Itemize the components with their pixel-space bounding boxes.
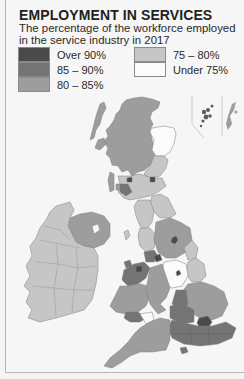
region-kintyre [108, 172, 114, 192]
region-isle-of-wight [180, 347, 188, 354]
region-edinburgh [150, 177, 155, 182]
legend-label: 75 – 80% [173, 49, 219, 61]
region-arran [116, 184, 120, 190]
region-powys-west-wales [110, 284, 150, 314]
legend-label: Under 75% [173, 64, 228, 76]
map-subtitle: The percentage of the workforce employed… [19, 22, 239, 47]
northern-isles-insets [192, 96, 238, 138]
legend-item-over-90: Over 90% [18, 47, 106, 62]
legend-item-75-80: 75 – 80% [134, 47, 219, 62]
legend-swatch [18, 62, 50, 77]
region-lancashire [138, 228, 156, 252]
region-skye [95, 138, 106, 150]
region-aberdeenshire [150, 126, 176, 156]
legend-swatch [134, 62, 166, 77]
region-glasgow [127, 177, 132, 182]
legend-label: 85 – 90% [57, 64, 103, 76]
map-title: EMPLOYMENT IN SERVICES [19, 7, 212, 23]
region-south-west-england [104, 318, 170, 368]
legend-item-85-90: 85 – 90% [18, 62, 103, 77]
region-cumbria [134, 200, 154, 230]
legend-label: 80 – 85% [57, 79, 103, 91]
legend-swatch [18, 77, 50, 92]
region-outer-hebrides [90, 102, 106, 140]
region-shetland [226, 102, 238, 130]
region-conwy [136, 266, 142, 272]
region-isle-of-man [124, 230, 130, 240]
legend-swatch [18, 47, 50, 62]
legend: Over 90% 85 – 90% 80 – 85% 75 – 80% Unde… [18, 47, 243, 95]
region-lincolnshire [186, 258, 206, 282]
region-orkney [200, 105, 214, 128]
legend-item-80-85: 80 – 85% [18, 77, 103, 92]
legend-swatch [134, 47, 166, 62]
choropleth-map [0, 92, 244, 374]
legend-item-under-75: Under 75% [134, 62, 228, 77]
legend-label: Over 90% [57, 49, 106, 61]
region-north-east-england [150, 194, 176, 218]
